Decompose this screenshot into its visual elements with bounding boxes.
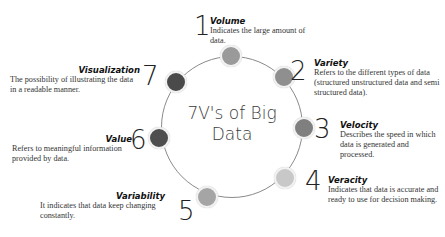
item-description: It indicates that data keep changing con…	[40, 201, 165, 221]
item-visualization: Visualization The possibility of illustr…	[10, 65, 140, 95]
number-6: 6	[130, 127, 147, 153]
node-dot-variability	[196, 186, 218, 208]
item-description: Refers to the different types of data (s…	[314, 68, 442, 98]
item-title: Volume	[210, 16, 320, 26]
item-description: The possibility of illustrating the data…	[10, 75, 140, 95]
item-title: Veracity	[328, 175, 440, 185]
node-dot-velocity	[293, 117, 315, 139]
item-title: Value	[12, 134, 132, 144]
item-value: Value Refers to meaningful information p…	[12, 134, 132, 164]
number-3: 3	[314, 116, 331, 142]
item-description: Indicates the large amount of data.	[210, 26, 320, 46]
number-1: 1	[194, 13, 211, 39]
center-title: 7V's of Big Data	[185, 103, 279, 145]
node-dot-value	[148, 127, 170, 149]
item-description: Indicates that data is accurate and read…	[328, 185, 440, 205]
number-7: 7	[142, 63, 159, 89]
node-dot-visualization	[165, 71, 187, 93]
number-2: 2	[290, 58, 307, 84]
item-variability: Variability It indicates that data keep …	[40, 191, 165, 221]
item-title: Variety	[314, 58, 442, 68]
center-title-line2: Data	[185, 124, 279, 145]
number-5: 5	[178, 198, 195, 224]
item-velocity: Velocity Describes the speed in which da…	[340, 120, 440, 160]
item-title: Visualization	[10, 65, 140, 75]
node-dot-volume	[220, 45, 242, 67]
item-variety: Variety Refers to the different types of…	[314, 58, 442, 98]
item-volume: Volume Indicates the large amount of dat…	[210, 16, 320, 46]
item-description: Describes the speed in which data is gen…	[340, 130, 440, 160]
item-description: Refers to meaningful information provide…	[12, 144, 132, 164]
node-dot-veracity	[274, 167, 296, 189]
center-title-line1: 7V's of Big	[185, 103, 279, 124]
item-title: Velocity	[340, 120, 440, 130]
number-4: 4	[305, 168, 322, 194]
item-title: Variability	[40, 191, 165, 201]
item-veracity: Veracity Indicates that data is accurate…	[328, 175, 440, 205]
